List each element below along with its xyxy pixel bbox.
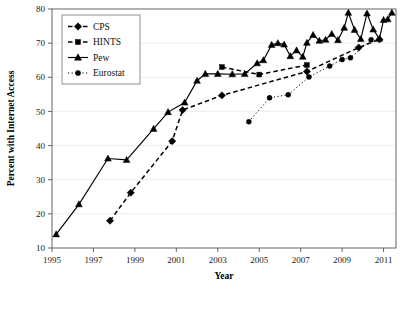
y-tick-label: 10 (36, 243, 46, 253)
data-point-triangle (364, 10, 371, 16)
data-point-circle (75, 70, 80, 75)
data-point-circle (348, 55, 353, 60)
data-point-square (257, 72, 262, 77)
data-point-circle (340, 57, 345, 62)
data-point-circle (286, 92, 291, 97)
x-tick-label: 2009 (333, 255, 352, 265)
y-tick-label: 30 (36, 175, 46, 185)
chart-legend: CPSHINTSPewEurostat (62, 15, 140, 84)
data-point-diamond (179, 106, 186, 113)
data-point-triangle (328, 30, 335, 36)
series-cps (106, 36, 383, 225)
data-point-triangle (105, 155, 112, 161)
x-tick-label: 2007 (292, 255, 311, 265)
data-point-triangle (181, 99, 188, 105)
x-tick-label: 1995 (43, 255, 62, 265)
x-tick-label: 2005 (250, 255, 269, 265)
data-point-diamond (218, 92, 225, 99)
y-tick-label: 60 (36, 72, 46, 82)
legend-label: Pew (93, 53, 110, 63)
x-tick-label: 1997 (84, 255, 103, 265)
y-tick-label: 80 (36, 4, 46, 14)
data-point-diamond (169, 137, 176, 144)
data-point-diamond (303, 68, 310, 75)
y-tick-label: 70 (36, 38, 46, 48)
x-tick-label: 2011 (375, 255, 393, 265)
data-point-triangle (76, 201, 83, 207)
data-point-triangle (310, 31, 317, 37)
data-point-diamond (355, 44, 362, 51)
y-tick-label: 40 (36, 141, 46, 151)
data-point-circle (327, 64, 332, 69)
line-chart: 1020304050607080 19951997199920012003200… (0, 0, 405, 320)
legend-label: Eurostat (93, 68, 125, 78)
data-point-circle (246, 119, 251, 124)
x-axis-label: Year (215, 271, 235, 281)
y-axis-ticks: 1020304050607080 (36, 4, 52, 253)
data-point-triangle (275, 40, 282, 46)
legend-label: HINTS (93, 37, 121, 47)
data-point-circle (267, 95, 272, 100)
series-line-cps (110, 39, 379, 220)
series-line-hints (222, 65, 307, 75)
data-point-triangle (384, 16, 391, 22)
chart-container: 1020304050607080 19951997199920012003200… (0, 0, 405, 320)
x-tick-label: 1999 (126, 255, 145, 265)
data-point-triangle (254, 60, 261, 66)
x-tick-label: 2001 (167, 255, 185, 265)
data-point-square (220, 65, 225, 70)
y-axis-label: Percent with Internet Access (6, 70, 16, 186)
y-tick-label: 50 (36, 107, 46, 117)
x-axis-ticks: 199519971999200120032005200720092011 (43, 248, 392, 265)
data-point-triangle (351, 26, 358, 32)
data-point-square (304, 63, 309, 68)
legend-label: CPS (93, 22, 110, 32)
data-point-triangle (293, 47, 300, 53)
data-point-triangle (341, 24, 348, 30)
y-tick-label: 20 (36, 209, 46, 219)
data-point-triangle (370, 26, 377, 32)
data-point-triangle (260, 57, 267, 63)
x-tick-label: 2003 (209, 255, 228, 265)
data-point-square (76, 40, 81, 45)
data-point-triangle (388, 9, 395, 15)
data-point-circle (369, 37, 374, 42)
data-point-triangle (345, 9, 352, 15)
data-point-circle (306, 74, 311, 79)
